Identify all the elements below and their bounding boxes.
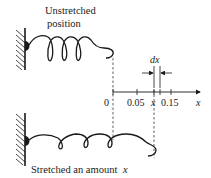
tick-label-x: x xyxy=(150,97,156,108)
stretched-label: Stretched an amount xyxy=(31,164,117,175)
stretched-label-var: x xyxy=(122,164,128,175)
unstretched-label: Unstretched xyxy=(45,5,96,16)
axis-variable-label: x xyxy=(195,97,201,108)
lower-anchor-icon xyxy=(25,136,30,146)
x-axis: 0 0.05 x 0.15 x xyxy=(104,89,201,108)
tick-label-0-15: 0.15 xyxy=(161,97,179,108)
stretched-label-group: Stretched an amount x xyxy=(31,164,128,175)
upper-wall xyxy=(16,28,30,70)
position-label: position xyxy=(47,18,82,29)
lower-wall xyxy=(16,113,30,166)
upper-anchor-icon xyxy=(25,41,30,51)
dx-label: dx xyxy=(150,54,160,65)
dx-annotation: dx xyxy=(142,54,172,88)
lower-spring xyxy=(29,134,156,156)
tick-label-0: 0 xyxy=(104,97,109,108)
tick-label-0-05: 0.05 xyxy=(127,97,145,108)
upper-spring xyxy=(29,36,113,61)
spring-diagram: Unstretched position dx 0 0.05 x 0.15 x xyxy=(0,0,211,178)
